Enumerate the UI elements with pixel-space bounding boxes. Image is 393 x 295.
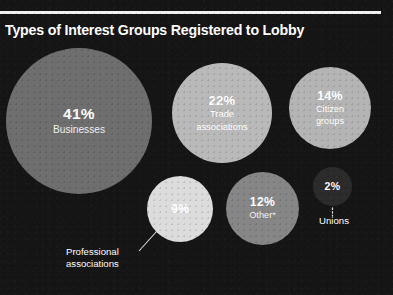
bubble-other-label: Other* — [249, 210, 276, 220]
infographic-bubble-chart: Types of Interest Groups Registered to L… — [0, 0, 393, 295]
label-professional-line1: Professional — [66, 246, 150, 258]
bubble-professional-associations[interactable]: 9% — [147, 176, 213, 242]
bubble-citizen-percent: 14% — [317, 90, 343, 103]
page-title: Types of Interest Groups Registered to L… — [5, 22, 375, 38]
bubble-trade-label-line1: Trade — [210, 109, 234, 120]
bubble-other[interactable]: 12% Other* — [226, 172, 299, 245]
label-professional-associations: Professional associations — [66, 246, 150, 269]
bubble-businesses-percent: 41% — [63, 106, 95, 122]
bubble-businesses-label: Businesses — [53, 124, 105, 135]
label-unions: Unions — [308, 215, 360, 227]
bubble-other-percent: 12% — [250, 196, 275, 209]
bubble-professional-percent: 9% — [171, 203, 189, 216]
bubble-citizen-groups[interactable]: 14% Citizen groups — [289, 67, 371, 149]
bubble-citizen-label-line1: Citizen — [316, 104, 344, 114]
bubble-unions-percent: 2% — [325, 181, 341, 192]
bubble-trade-label-line2: associations — [196, 122, 248, 133]
bubble-unions[interactable]: 2% — [313, 167, 352, 206]
title-divider-rule — [0, 11, 381, 14]
bubble-businesses[interactable]: 41% Businesses — [6, 48, 152, 194]
bubble-citizen-label-line2: groups — [316, 116, 344, 126]
label-professional-line2: associations — [66, 258, 150, 270]
bubble-trade-percent: 22% — [209, 94, 236, 108]
bubble-trade-associations[interactable]: 22% Trade associations — [172, 63, 272, 163]
